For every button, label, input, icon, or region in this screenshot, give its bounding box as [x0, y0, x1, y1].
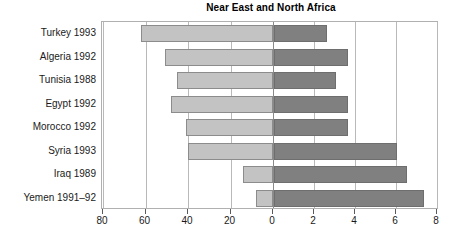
tick-right-2 — [313, 209, 314, 214]
tick-left-20 — [230, 209, 231, 214]
bar-right — [274, 49, 348, 66]
category-label: Iraq 1989 — [0, 162, 96, 186]
tick-label-left-60: 60 — [139, 215, 150, 226]
tick-right-4 — [354, 209, 355, 214]
tick-label-right-0: 0 — [269, 215, 275, 226]
bar-row — [102, 22, 437, 46]
category-label: Algeria 1992 — [0, 45, 96, 69]
bar-left — [177, 72, 273, 89]
bar-row — [102, 163, 437, 187]
bar-right — [274, 96, 348, 113]
category-label: Turkey 1993 — [0, 21, 96, 45]
bar-right — [274, 119, 348, 136]
category-label: Yemen 1991–92 — [0, 186, 96, 210]
bar-left — [186, 119, 273, 136]
tick-left-80 — [102, 209, 103, 214]
category-label: Morocco 1992 — [0, 115, 96, 139]
tick-right-0 — [272, 209, 273, 214]
bar-right — [274, 190, 424, 207]
bar-row — [102, 116, 437, 140]
bar-left — [188, 143, 273, 160]
bar-right — [274, 72, 336, 89]
tick-label-right-2: 2 — [310, 215, 316, 226]
bar-row — [102, 69, 437, 93]
tick-label-right-6: 6 — [392, 215, 398, 226]
category-axis-labels: Turkey 1993Algeria 1992Tunisia 1988Egypt… — [0, 21, 96, 209]
bar-row — [102, 187, 437, 211]
tick-left-40 — [187, 209, 188, 214]
bar-row — [102, 140, 437, 164]
bar-row — [102, 46, 437, 70]
bar-left — [171, 96, 273, 113]
value-axis: 8060402002468 — [101, 209, 438, 237]
chart-title: Near East and North Africa — [104, 2, 438, 13]
tick-left-60 — [145, 209, 146, 214]
category-label: Syria 1993 — [0, 139, 96, 163]
tick-label-left-20: 20 — [224, 215, 235, 226]
gridline-right-8 — [437, 22, 438, 208]
bar-right — [274, 166, 407, 183]
bar-left — [256, 190, 273, 207]
tick-label-right-8: 8 — [433, 215, 439, 226]
bar-left — [165, 49, 273, 66]
bar-left — [243, 166, 273, 183]
bar-row — [102, 93, 437, 117]
bar-right — [274, 25, 327, 42]
tick-right-6 — [395, 209, 396, 214]
bar-left — [141, 25, 273, 42]
chart-figure: Near East and North Africa Turkey 1993Al… — [0, 0, 457, 243]
tick-right-8 — [436, 209, 437, 214]
category-label: Tunisia 1988 — [0, 68, 96, 92]
tick-label-left-80: 80 — [96, 215, 107, 226]
tick-label-right-4: 4 — [351, 215, 357, 226]
bar-right — [274, 143, 397, 160]
category-label: Egypt 1992 — [0, 92, 96, 116]
tick-label-left-40: 40 — [181, 215, 192, 226]
plot-area — [101, 21, 438, 209]
